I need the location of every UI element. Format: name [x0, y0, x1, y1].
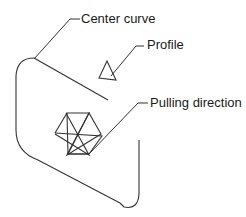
pulling-direction-label: Pulling direction: [150, 96, 242, 110]
diagram-canvas: Center curve Profile Pulling direction: [0, 0, 246, 217]
center-curve-label: Center curve: [81, 12, 155, 26]
center-curve-path: [16, 58, 139, 207]
profile-leader: [111, 46, 144, 76]
profile-label: Profile: [147, 38, 184, 52]
profile-triangle: [99, 61, 116, 80]
center-curve-leader: [34, 19, 80, 59]
